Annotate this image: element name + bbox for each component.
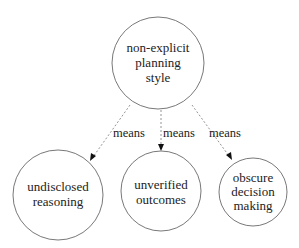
node-label-line: planning	[135, 55, 181, 70]
node-label-line: undisclosed	[27, 179, 89, 194]
node-label-line: style	[146, 70, 171, 85]
node-undisclosed-reasoning: undisclosed reasoning	[13, 150, 103, 240]
node-label-line: outcomes	[136, 192, 186, 207]
node-obscure-decision-making: obscure decision making	[219, 158, 287, 226]
node-label-line: obscure	[233, 170, 274, 185]
node-unverified-outcomes: unverified outcomes	[121, 151, 201, 231]
edge-root-to-obscure-decision-making: means	[192, 105, 241, 160]
edge-root-to-unverified-outcomes: means	[158, 110, 195, 151]
node-label-line: making	[234, 198, 273, 213]
node-label-line: unverified	[134, 177, 188, 192]
edge-label: means	[113, 126, 145, 140]
node-non-explicit-planning-style: non-explicit planning style	[112, 17, 204, 109]
arrowhead-icon	[226, 152, 232, 160]
diagram-canvas: means means means non-explicit planning …	[0, 0, 299, 248]
node-label-line: decision	[231, 184, 275, 199]
arrowhead-icon	[158, 144, 164, 151]
edge-root-to-undisclosed-reasoning: means	[90, 105, 145, 161]
node-label-line: non-explicit	[127, 40, 190, 55]
node-label-line: reasoning	[33, 194, 84, 209]
edge-label: means	[209, 126, 241, 140]
edge-label: means	[163, 126, 195, 140]
